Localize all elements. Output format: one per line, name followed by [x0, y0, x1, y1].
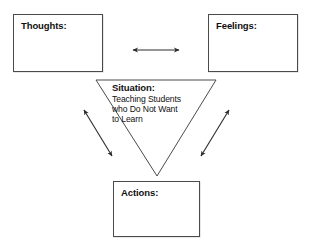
- actions-box[interactable]: Actions:: [113, 181, 200, 237]
- thoughts-box[interactable]: Thoughts:: [13, 14, 103, 72]
- thoughts-label: Thoughts:: [21, 20, 67, 31]
- cognitive-triangle-diagram: Thoughts: Feelings: Actions: Situation: …: [0, 0, 311, 251]
- feelings-box[interactable]: Feelings:: [208, 14, 298, 72]
- situation-triangle: [96, 80, 216, 176]
- situation-feelings-arrow: [201, 110, 229, 156]
- situation-thoughts-arrow: [84, 110, 112, 156]
- feelings-label: Feelings:: [216, 20, 257, 31]
- actions-label: Actions:: [121, 187, 158, 198]
